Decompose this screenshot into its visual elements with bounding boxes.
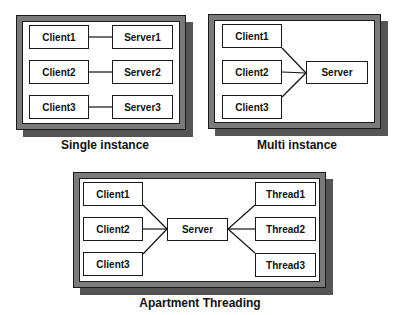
thread2-box: Thread2: [255, 217, 316, 241]
client1-box: Client1: [222, 24, 282, 48]
client2-box: Client2: [29, 60, 89, 84]
thread3-box: Thread3: [255, 253, 316, 277]
client3-box: Client3: [29, 95, 89, 119]
thread1-box: Thread1: [255, 182, 316, 206]
server-box: Server: [167, 218, 228, 241]
server2-box: Server2: [112, 60, 173, 84]
client1-box: Client1: [83, 182, 143, 206]
server3-box: Server3: [112, 95, 173, 119]
single-instance-caption: Single instance: [30, 138, 180, 152]
server1-box: Server1: [112, 25, 173, 49]
multi-instance-caption: Multi instance: [222, 138, 372, 152]
client3-box: Client3: [222, 95, 282, 119]
client2-box: Client2: [83, 217, 143, 241]
client3-box: Client3: [83, 252, 143, 276]
client1-box: Client1: [29, 25, 89, 49]
client2-box: Client2: [222, 60, 282, 84]
server-box: Server: [306, 61, 368, 84]
apartment-threading-caption: Apartment Threading: [120, 296, 280, 310]
